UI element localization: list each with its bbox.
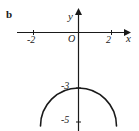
y-tick-label-neg5: -5 [61,115,69,125]
x-tick-label-neg2: -2 [27,35,35,45]
y-axis-label: y [68,11,73,22]
x-tick-label-pos2: 2 [106,35,111,45]
origin-label: O [68,34,75,44]
x-axis-label: x [126,33,131,44]
y-tick-label-neg3: -3 [61,81,69,91]
math-figure: b y x O -2 2 -3 -5 [0,0,139,131]
part-label: b [6,9,12,20]
